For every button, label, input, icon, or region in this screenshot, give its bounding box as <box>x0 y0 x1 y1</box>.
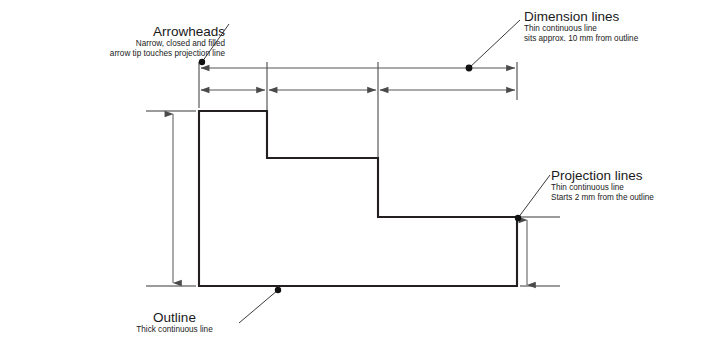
annotation-arrowheads-line1: Narrow, closed and filled <box>40 39 225 49</box>
annotation-projection-lines: Projection lines Thin continuous line St… <box>551 168 703 202</box>
leader-dots-group <box>199 59 521 293</box>
annotation-arrowheads-title: Arrowheads <box>40 24 225 39</box>
dimension-lines-vertical-group <box>173 114 527 285</box>
figure-canvas: Arrowheads Narrow, closed and filled arr… <box>0 0 710 358</box>
annotation-dimension-lines: Dimension lines Thin continuous line sit… <box>524 9 706 43</box>
projection-lines-leader-line <box>518 175 550 218</box>
projection-lines-dot <box>515 215 521 221</box>
annotation-dimension-lines-title: Dimension lines <box>524 9 706 24</box>
part-outline <box>199 111 517 286</box>
projection-lines-vertical-group <box>199 62 517 213</box>
dimension-lines-leader-line <box>469 20 520 68</box>
annotation-outline-line1: Thick continuous line <box>112 325 237 335</box>
dimension-lines-dot <box>466 65 473 72</box>
dimension-lines-horizontal-group <box>201 68 515 90</box>
outline-leader-line <box>239 290 278 323</box>
projection-lines-horizontal-group <box>146 111 560 286</box>
annotation-dimension-lines-line2: sits approx. 10 mm from outline <box>524 34 706 44</box>
annotation-arrowheads-line2: arrow tip touches projection line <box>40 49 225 59</box>
annotation-projection-lines-line2: Starts 2 mm from the outline <box>551 193 703 203</box>
arrowheads-dot <box>199 59 205 65</box>
outline-dot <box>275 287 281 293</box>
annotation-projection-lines-title: Projection lines <box>551 168 703 183</box>
annotation-dimension-lines-line1: Thin continuous line <box>524 24 706 34</box>
annotation-outline-title: Outline <box>112 310 237 325</box>
annotation-arrowheads: Arrowheads Narrow, closed and filled arr… <box>40 24 225 58</box>
annotation-outline: Outline Thick continuous line <box>112 310 237 335</box>
annotation-projection-lines-line1: Thin continuous line <box>551 183 703 193</box>
leader-lines-group <box>202 20 550 323</box>
